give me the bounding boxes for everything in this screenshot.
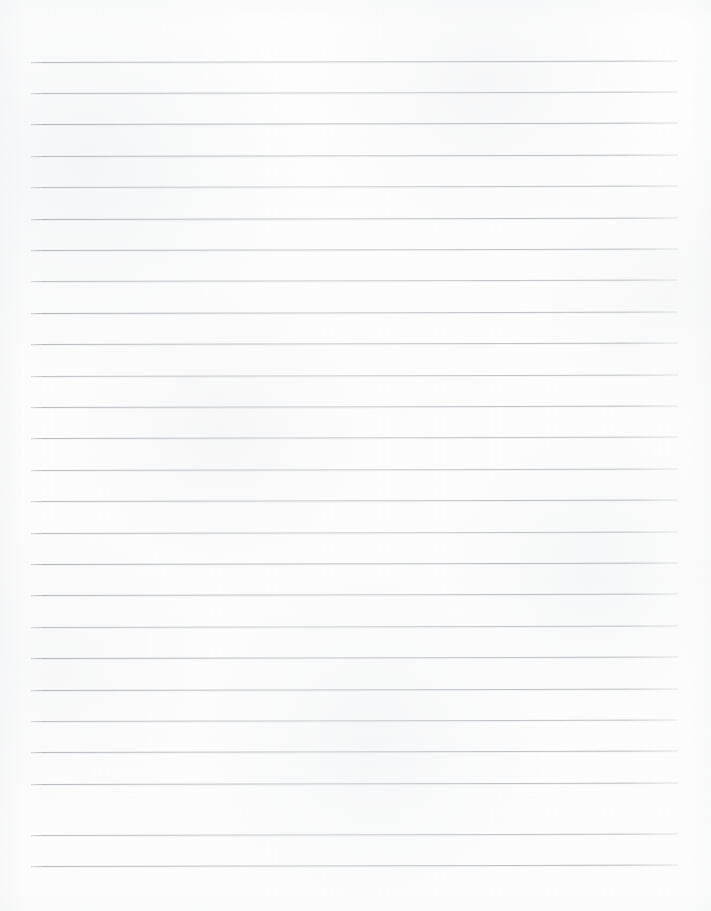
rule-line — [31, 625, 678, 627]
rule-line — [31, 91, 678, 93]
rule-line — [31, 688, 678, 690]
rule-line — [31, 186, 678, 188]
rule-line — [31, 562, 678, 564]
rule-line — [31, 751, 678, 753]
rule-line — [31, 311, 678, 313]
rule-line — [31, 594, 678, 596]
rule-line — [31, 60, 678, 62]
rule-line — [31, 500, 678, 502]
rule-line — [31, 280, 678, 282]
rule-line — [31, 531, 678, 533]
ruled-lines-layer — [0, 0, 711, 911]
rule-line — [31, 833, 678, 835]
rule-line — [31, 437, 678, 439]
rule-line — [31, 719, 678, 721]
rule-line — [31, 217, 678, 219]
rule-line — [31, 343, 678, 345]
rule-line — [31, 782, 678, 784]
rule-line — [31, 865, 678, 867]
rule-line — [31, 405, 678, 407]
rule-line — [31, 123, 678, 125]
rule-line — [31, 468, 678, 470]
rule-line — [31, 154, 678, 156]
rule-line — [31, 248, 678, 250]
rule-line — [31, 374, 678, 376]
scanned-page — [0, 0, 711, 911]
rule-line — [31, 657, 678, 659]
